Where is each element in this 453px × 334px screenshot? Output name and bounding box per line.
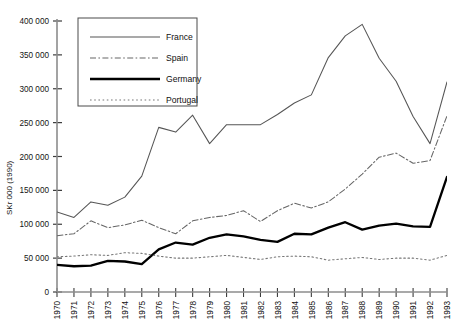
legend-label-germany: Germany [166,74,202,84]
series-line-spain [57,116,447,236]
x-tick-label: 1977 [172,301,181,320]
x-tick-label: 1982 [257,301,266,320]
x-tick-label: 1974 [121,301,130,320]
x-tick-label: 1992 [426,301,435,320]
y-tick-label: 100 000 [19,220,49,229]
chart-container: SKr 000 (1990) 050 000100 000150 000200 … [0,0,453,334]
legend-label-spain: Spain [166,53,188,63]
y-axis-title-text: SKr 000 (1990) [5,160,14,215]
y-axis-ticks: 050 000100 000150 000200 000250 000300 0… [19,17,62,297]
x-tick-label: 1970 [53,301,62,320]
series-line-germany [57,177,447,266]
legend-label-portugal: Portugal [166,95,198,105]
legend-label-france: France [166,32,193,42]
x-tick-label: 1991 [409,301,418,320]
x-tick-label: 1976 [155,301,164,320]
x-tick-label: 1980 [223,301,232,320]
y-tick-label: 50 000 [24,254,49,263]
y-tick-label: 0 [44,288,49,297]
x-tick-label: 1973 [104,301,113,320]
y-tick-label: 400 000 [19,17,49,26]
chart-legend: FranceSpainGermanyPortugal [78,18,202,106]
x-tick-label: 1975 [138,301,147,320]
x-tick-label: 1972 [87,301,96,320]
x-tick-label: 1985 [308,301,317,320]
x-tick-label: 1993 [443,301,452,320]
x-tick-label: 1981 [240,301,249,320]
x-tick-label: 1978 [189,301,198,320]
x-tick-label: 1979 [206,301,215,320]
y-axis-title: SKr 000 (1990) [5,160,14,215]
x-tick-label: 1987 [341,301,350,320]
y-tick-label: 250 000 [19,119,49,128]
y-tick-label: 350 000 [19,51,49,60]
x-tick-label: 1988 [358,301,367,320]
y-tick-label: 200 000 [19,153,49,162]
x-tick-label: 1990 [392,301,401,320]
y-tick-label: 300 000 [19,85,49,94]
x-tick-label: 1986 [325,301,334,320]
y-tick-label: 150 000 [19,186,49,195]
line-chart: SKr 000 (1990) 050 000100 000150 000200 … [0,0,453,334]
x-tick-label: 1971 [70,301,79,320]
x-tick-label: 1989 [375,301,384,320]
x-tick-label: 1983 [274,301,283,320]
series-line-portugal [57,253,447,260]
x-tick-label: 1984 [291,301,300,320]
